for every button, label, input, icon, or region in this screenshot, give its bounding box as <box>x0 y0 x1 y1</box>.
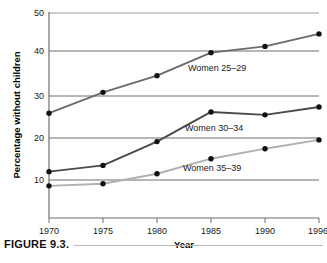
data-point <box>46 111 51 116</box>
y-axis-title: Percentage without children <box>11 51 22 178</box>
y-tick-label-50: 50 <box>34 8 44 18</box>
data-point <box>262 112 267 117</box>
data-point <box>208 109 213 114</box>
series-label-women-25-29: Women 25–29 <box>188 63 246 73</box>
x-tick-label-1970: 1970 <box>39 226 59 236</box>
y-axis-tick-labels: 50 40 30 20 10 <box>34 8 44 185</box>
y-tick-label-30: 30 <box>34 91 44 101</box>
x-tick-label-1996: 1996 <box>308 226 327 236</box>
data-point <box>262 146 267 151</box>
data-point <box>100 90 105 95</box>
data-point <box>208 156 213 161</box>
data-point <box>208 50 213 55</box>
x-tick-label-1975: 1975 <box>93 226 113 236</box>
x-axis-tick-labels: 1970 1975 1980 1985 1990 1996 <box>39 226 327 236</box>
y-tick-label-40: 40 <box>34 46 44 56</box>
caption-rule <box>74 245 323 246</box>
data-point <box>100 163 105 168</box>
data-point <box>100 181 105 186</box>
data-point <box>262 44 267 49</box>
data-point <box>154 73 159 78</box>
figure-caption-text: FIGURE 9.3. <box>4 238 69 250</box>
data-point <box>154 171 159 176</box>
data-point <box>316 104 321 109</box>
x-tick-label-1980: 1980 <box>147 226 167 236</box>
y-tick-label-10: 10 <box>34 175 44 185</box>
series-label-women-30-34: Women 30–34 <box>185 123 243 133</box>
y-tick-label-20: 20 <box>34 133 44 143</box>
figure-caption: FIGURE 9.3. <box>4 238 323 250</box>
line-chart: 50 40 30 20 10 1970 1975 1980 1985 1990 … <box>0 0 327 263</box>
data-point <box>316 31 321 36</box>
x-tick-label-1990: 1990 <box>255 226 275 236</box>
data-point <box>46 183 51 188</box>
data-point <box>46 169 51 174</box>
data-point <box>316 137 321 142</box>
x-axis-ticks <box>49 218 319 223</box>
series-label-women-35-39: Women 35–39 <box>183 163 241 173</box>
figure-container: 50 40 30 20 10 1970 1975 1980 1985 1990 … <box>0 0 327 263</box>
x-tick-label-1985: 1985 <box>201 226 221 236</box>
data-point <box>154 139 159 144</box>
